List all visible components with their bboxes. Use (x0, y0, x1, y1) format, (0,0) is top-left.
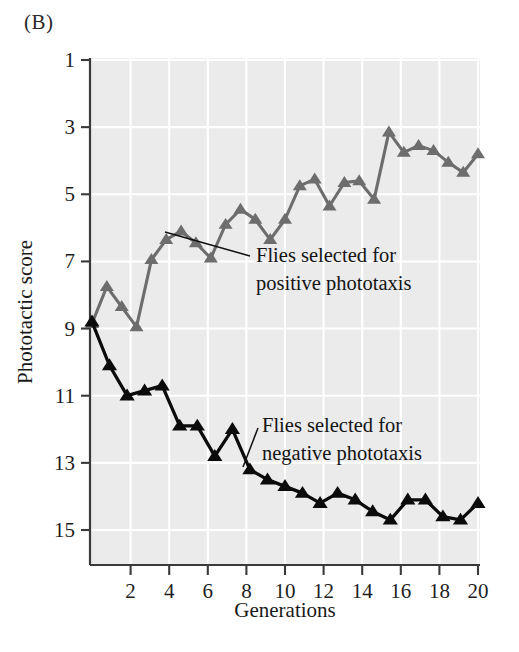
y-tick-label: 3 (65, 115, 76, 139)
chart-canvas: 13579111315 2468101214161820 Generations… (0, 0, 519, 652)
x-tick-label: 14 (352, 579, 374, 603)
y-tick-label: 5 (65, 182, 76, 206)
y-axis-ticks: 13579111315 (54, 48, 90, 542)
annotation-negative-line2: negative phototaxis (262, 442, 422, 465)
x-tick-label: 4 (164, 579, 175, 603)
x-tick-label: 6 (203, 579, 214, 603)
phototaxis-chart-svg: 13579111315 2468101214161820 Generations… (0, 0, 519, 652)
annotation-positive-line1: Flies selected for (256, 244, 396, 266)
figure-panel: (B) 13579111315 2468101214161820 Generat… (0, 0, 519, 652)
x-tick-label: 20 (468, 579, 489, 603)
y-axis-title: Phototactic score (13, 240, 37, 384)
y-tick-label: 13 (54, 451, 75, 475)
y-tick-label: 7 (65, 249, 76, 273)
x-tick-label: 18 (429, 579, 450, 603)
annotation-negative-line1: Flies selected for (262, 414, 402, 436)
annotation-positive-line2: positive phototaxis (256, 272, 411, 295)
y-tick-label: 11 (55, 384, 75, 408)
y-tick-label: 15 (54, 518, 75, 542)
y-tick-label: 1 (65, 48, 76, 72)
y-tick-label: 9 (65, 317, 76, 341)
x-tick-label: 2 (125, 579, 136, 603)
x-tick-label: 16 (390, 579, 411, 603)
x-axis-title: Generations (234, 598, 335, 622)
